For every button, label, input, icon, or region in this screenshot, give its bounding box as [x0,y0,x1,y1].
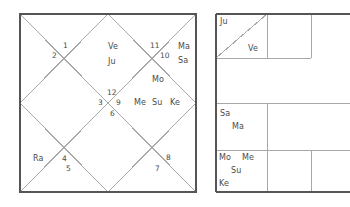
astrology-charts-container: 123456789101112VeJuMaSaMoMeSuKeRa JuVeSa… [0,0,350,207]
north-planet-ra: Ra [33,155,44,163]
north-planet-ju: Ju [108,58,116,66]
house-number-9: 9 [116,99,121,107]
south-planet-ma: Ma [232,123,244,131]
house-number-11: 11 [150,42,160,50]
south-planet-ke: Ke [219,180,229,188]
house-number-1: 1 [63,42,68,50]
north-planet-su: Su [152,99,162,107]
south-planet-ve: Ve [248,45,258,53]
house-number-10: 10 [160,52,170,60]
north-planet-me: Me [134,99,146,107]
north-planet-mo: Mo [152,76,164,84]
house-number-8: 8 [166,154,171,162]
south-planet-me: Me [242,154,254,162]
north-planet-sa: Sa [178,57,188,65]
house-number-4: 4 [62,155,67,163]
south-planet-mo: Mo [219,154,231,162]
south-planet-sa: Sa [220,110,230,118]
north-planet-ke: Ke [170,99,180,107]
south-planet-ju: Ju [220,18,228,26]
house-number-2: 2 [52,52,57,60]
house-number-12: 12 [107,89,117,97]
north-planet-ma: Ma [178,43,190,51]
house-number-3: 3 [98,99,103,107]
house-number-6: 6 [110,110,115,118]
house-number-7: 7 [155,165,160,173]
south-planet-su: Su [231,167,241,175]
house-number-5: 5 [66,165,71,173]
north-planet-ve: Ve [108,43,118,51]
